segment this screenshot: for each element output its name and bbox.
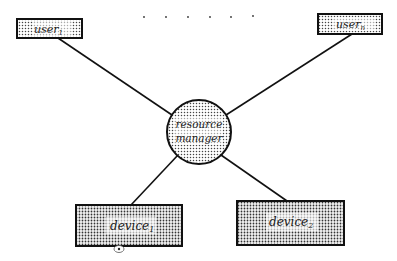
edge-manager-device1 [131, 155, 178, 205]
user1-subscript: 1 [59, 29, 63, 37]
node-resource-manager: resource manager [167, 100, 231, 164]
svg-text:device1: device1 [110, 219, 154, 234]
edge-usern-manager [226, 34, 352, 115]
ellipsis-dots [143, 15, 254, 18]
edge-manager-device2 [221, 155, 287, 201]
node-user1: user1 [17, 19, 82, 38]
manager-label-line1: resource [176, 118, 223, 130]
manager-label-line2: manager [175, 132, 223, 144]
usern-label: user [336, 18, 361, 31]
node-device2: device2 [237, 201, 344, 245]
diagram-canvas: user1 usern resource manager device1 dev… [0, 0, 397, 261]
node-device1: device1 [76, 205, 182, 253]
edge-user1-manager [58, 38, 172, 115]
user1-label: user [34, 23, 59, 36]
device2-label: device [269, 215, 308, 229]
device2-subscript: 2 [307, 221, 313, 230]
device1-subscript: 1 [149, 225, 154, 234]
svg-text:device2: device2 [269, 215, 313, 230]
node-usern: usern [318, 14, 382, 34]
device1-label: device [110, 219, 149, 233]
usern-subscript: n [361, 24, 366, 32]
